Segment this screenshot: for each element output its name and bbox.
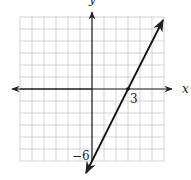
x-intercept-point (126, 87, 130, 91)
function-line (128, 20, 163, 89)
coordinate-plane: y x 3 −6 (0, 0, 191, 180)
y-axis-label: y (88, 0, 96, 6)
x-axis-label: x (182, 82, 189, 96)
y-intercept-label: −6 (72, 149, 90, 163)
x-intercept-label: 3 (130, 92, 138, 106)
graph-svg: y x 3 −6 (0, 0, 191, 180)
